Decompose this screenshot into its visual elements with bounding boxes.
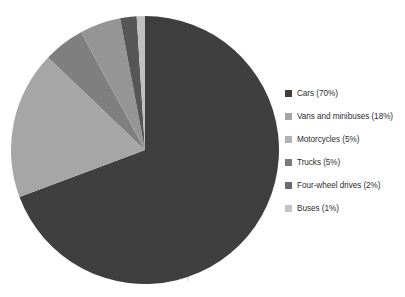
- pie-plot-area: [11, 14, 281, 286]
- legend-item-buses[interactable]: Buses (1%): [285, 203, 403, 226]
- legend-label-buses: Buses (1%): [297, 203, 339, 214]
- legend-swatch-trucks: [285, 159, 292, 166]
- pie-svg: [11, 14, 281, 286]
- pie-chart-figure: Cars (70%) Vans and minibuses (18%) Moto…: [0, 0, 405, 297]
- legend-item-four-wheel-drives[interactable]: Four-wheel drives (2%): [285, 180, 403, 203]
- legend-label-cars: Cars (70%): [297, 88, 338, 99]
- legend-item-cars[interactable]: Cars (70%): [285, 88, 403, 111]
- legend-swatch-vans-and-minibuses: [285, 113, 292, 120]
- legend-label-four-wheel-drives: Four-wheel drives (2%): [297, 180, 381, 191]
- pie-slice-group: [11, 16, 279, 284]
- legend-label-vans-and-minibuses: Vans and minibuses (18%): [297, 111, 393, 122]
- legend-item-trucks[interactable]: Trucks (5%): [285, 157, 403, 180]
- legend-item-vans-and-minibuses[interactable]: Vans and minibuses (18%): [285, 111, 403, 134]
- legend-swatch-four-wheel-drives: [285, 182, 292, 189]
- chart-legend: Cars (70%) Vans and minibuses (18%) Moto…: [285, 88, 403, 226]
- legend-swatch-buses: [285, 205, 292, 212]
- legend-swatch-motorcycles: [285, 136, 292, 143]
- legend-swatch-cars: [285, 90, 292, 97]
- legend-label-motorcycles: Motorcycles (5%): [297, 134, 359, 145]
- legend-label-trucks: Trucks (5%): [297, 157, 340, 168]
- legend-item-motorcycles[interactable]: Motorcycles (5%): [285, 134, 403, 157]
